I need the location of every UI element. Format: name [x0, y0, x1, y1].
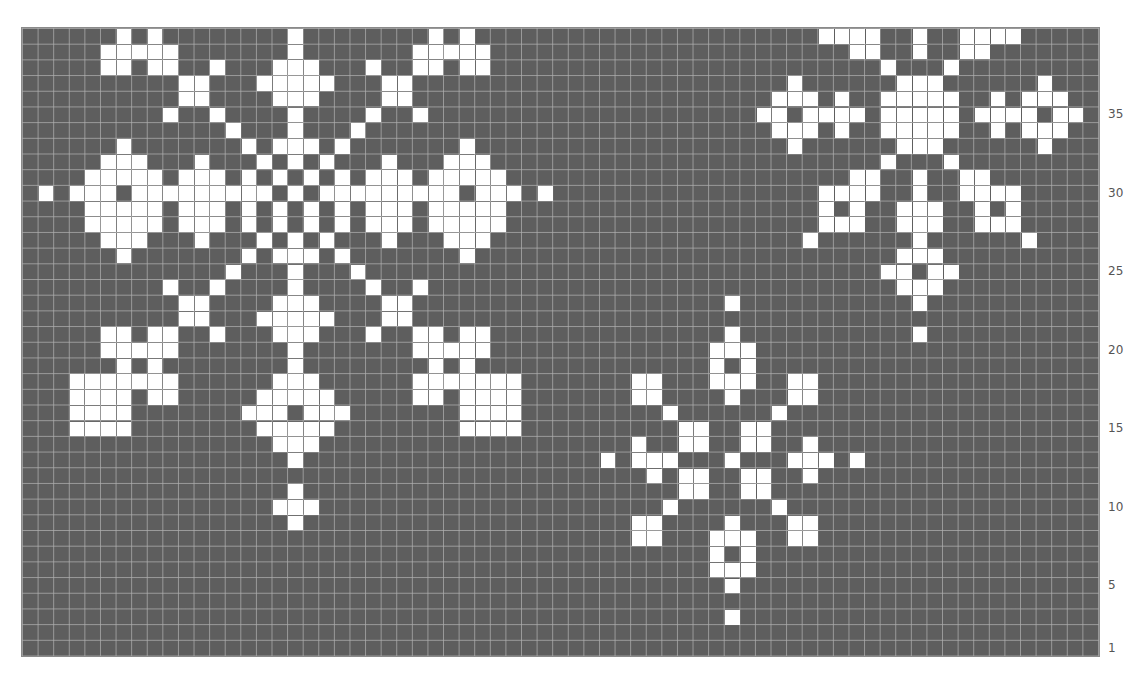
stitch-cell — [725, 610, 740, 625]
stitch-cell — [70, 390, 85, 405]
stitch-cell — [476, 390, 491, 405]
stitch-cell — [491, 186, 506, 201]
stitch-cell — [975, 170, 990, 185]
stitch-cell — [1038, 123, 1053, 138]
stitch-cell — [117, 170, 132, 185]
stitch-cell — [304, 92, 319, 107]
stitch-cell — [351, 186, 366, 201]
stitch-cell — [725, 579, 740, 594]
stitch-cell — [288, 233, 303, 248]
stitch-cell — [210, 280, 225, 295]
stitch-cell — [148, 202, 163, 217]
stitch-cell — [835, 108, 850, 123]
stitch-cell — [491, 406, 506, 421]
stitch-cell — [273, 422, 288, 437]
stitch-cell — [179, 312, 194, 327]
stitch-cell — [757, 484, 772, 499]
stitch-cell — [476, 170, 491, 185]
stitch-cell — [382, 296, 397, 311]
stitch-cell — [163, 108, 178, 123]
stitch-cell — [429, 60, 444, 75]
stitch-cell — [288, 343, 303, 358]
stitch-cell — [835, 123, 850, 138]
stitch-cell — [242, 170, 257, 185]
stitch-cell — [897, 92, 912, 107]
stitch-cell — [257, 312, 272, 327]
stitch-cell — [538, 186, 553, 201]
stitch-cell — [866, 186, 881, 201]
stitch-cell — [1069, 108, 1084, 123]
stitch-cell — [132, 186, 147, 201]
stitch-cell — [132, 202, 147, 217]
stitch-cell — [897, 202, 912, 217]
stitch-cell — [288, 500, 303, 515]
stitch-cell — [257, 186, 272, 201]
stitch-cell — [1022, 123, 1037, 138]
stitch-cell — [288, 265, 303, 280]
stitch-cell — [741, 563, 756, 578]
stitch-cell — [460, 406, 475, 421]
stitch-cell — [913, 108, 928, 123]
stitch-cell — [257, 233, 272, 248]
stitch-cell — [975, 186, 990, 201]
stitch-cell — [803, 123, 818, 138]
stitch-cell — [85, 202, 100, 217]
stitch-cell — [803, 469, 818, 484]
stitch-cell — [757, 108, 772, 123]
stitch-cell — [897, 139, 912, 154]
stitch-cell — [491, 422, 506, 437]
stitch-cell — [944, 60, 959, 75]
stitch-cell — [913, 92, 928, 107]
stitch-cell — [148, 374, 163, 389]
stitch-cell — [304, 76, 319, 91]
stitch-cell — [413, 280, 428, 295]
stitch-cell — [944, 123, 959, 138]
stitch-cell — [101, 60, 116, 75]
stitch-cell — [850, 202, 865, 217]
stitch-cell — [632, 453, 647, 468]
stitch-cell — [210, 327, 225, 342]
stitch-cell — [132, 45, 147, 60]
stitch-cell — [741, 469, 756, 484]
stitch-cell — [928, 202, 943, 217]
stitch-cell — [835, 92, 850, 107]
stitch-cell — [460, 233, 475, 248]
stitch-cell — [788, 531, 803, 546]
stitch-cell — [85, 390, 100, 405]
stitch-cell — [148, 359, 163, 374]
stitch-cell — [366, 280, 381, 295]
stitch-cell — [304, 60, 319, 75]
stitch-cell — [413, 60, 428, 75]
stitch-cell — [913, 217, 928, 232]
stitch-cell — [413, 343, 428, 358]
stitch-cell — [741, 422, 756, 437]
stitch-cell — [647, 390, 662, 405]
stitch-cell — [288, 327, 303, 342]
stitch-cell — [725, 343, 740, 358]
knitting-chart-grid — [22, 28, 1099, 656]
stitch-cell — [117, 29, 132, 44]
stitch-cell — [366, 327, 381, 342]
stitch-cell — [335, 139, 350, 154]
stitch-cell — [460, 343, 475, 358]
stitch-cell — [117, 374, 132, 389]
stitch-cell — [803, 437, 818, 452]
stitch-cell — [991, 217, 1006, 232]
stitch-cell — [913, 29, 928, 44]
stitch-cell — [788, 453, 803, 468]
stitch-cell — [179, 170, 194, 185]
stitch-cell — [163, 45, 178, 60]
stitch-cell — [819, 453, 834, 468]
stitch-cell — [273, 217, 288, 232]
stitch-cell — [382, 233, 397, 248]
stitch-cell — [382, 92, 397, 107]
stitch-cell — [101, 422, 116, 437]
stitch-cell — [101, 343, 116, 358]
stitch-cell — [148, 60, 163, 75]
stitch-cell — [476, 60, 491, 75]
stitch-cell — [273, 437, 288, 452]
stitch-cell — [460, 60, 475, 75]
stitch-cell — [163, 374, 178, 389]
stitch-cell — [288, 123, 303, 138]
stitch-cell — [897, 280, 912, 295]
